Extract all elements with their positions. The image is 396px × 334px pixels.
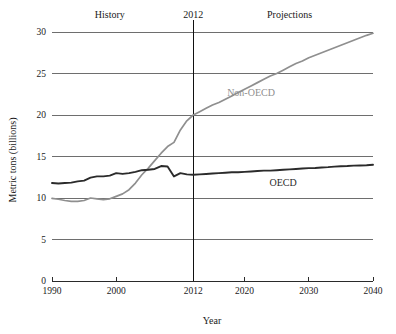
emissions-line-chart: 051015202530 199020002012202020302040 No…	[0, 0, 396, 334]
y-tick-label-20: 20	[37, 110, 47, 120]
chart-container: 051015202530 199020002012202020302040 No…	[0, 0, 396, 334]
header-annotations-group: History2012Projections	[95, 9, 312, 20]
y-tick-label-10: 10	[37, 193, 47, 203]
series-label-non-oecd: Non-OECD	[227, 87, 275, 98]
annotation-divider-year: 2012	[183, 9, 203, 20]
y-tick-label-5: 5	[41, 235, 46, 245]
y-tick-label-0: 0	[41, 276, 46, 286]
x-tick-label-2000: 2000	[107, 286, 126, 296]
series-line-oecd	[52, 165, 373, 184]
y-tick-label-15: 15	[37, 152, 47, 162]
x-tick-label-1990: 1990	[43, 286, 62, 296]
series-group	[52, 33, 373, 201]
y-tick-label-25: 25	[37, 69, 47, 79]
y-tick-label-30: 30	[37, 27, 47, 37]
x-tick-labels-group: 199020002012202020302040	[43, 286, 383, 296]
annotation-projections: Projections	[267, 9, 312, 20]
y-axis-title: Metric tons (billions)	[7, 118, 19, 203]
x-tick-label-2040: 2040	[364, 286, 383, 296]
annotation-history: History	[95, 9, 125, 20]
x-tick-label-2020: 2020	[235, 286, 254, 296]
gridlines-group	[52, 32, 373, 281]
y-tick-labels-group: 051015202530	[37, 27, 47, 286]
x-tick-label-2012: 2012	[184, 286, 203, 296]
series-label-oecd: OECD	[270, 177, 297, 188]
x-axis-title: Year	[203, 315, 222, 326]
x-axis-group	[52, 277, 373, 281]
x-tick-label-2030: 2030	[299, 286, 318, 296]
